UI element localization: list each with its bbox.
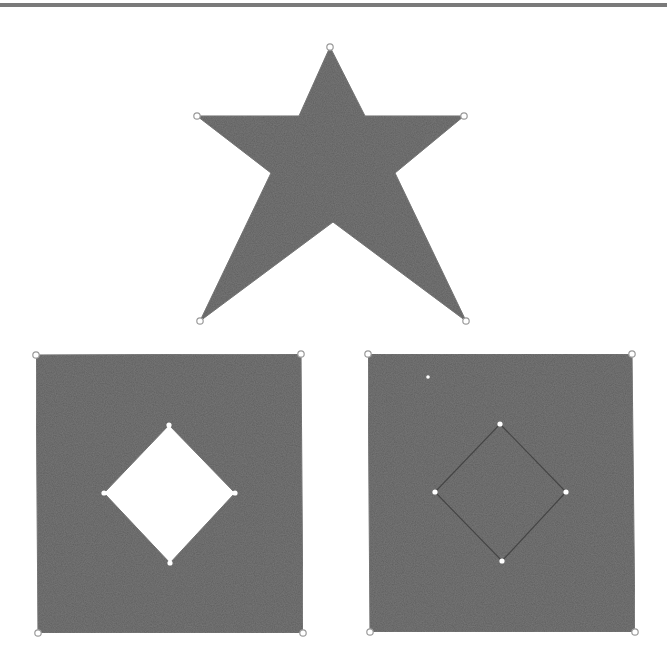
vertex-handle-icon[interactable] bbox=[197, 318, 203, 324]
vertex-handle-icon[interactable] bbox=[194, 113, 200, 119]
shapes-canvas bbox=[0, 0, 667, 658]
vertex-handle-icon[interactable] bbox=[33, 352, 39, 358]
star-shape[interactable] bbox=[194, 44, 469, 324]
vertex-handle-icon[interactable] bbox=[365, 351, 371, 357]
star-polygon[interactable] bbox=[197, 47, 466, 321]
vertex-handle-icon[interactable] bbox=[499, 558, 504, 563]
square-evenodd-polygon[interactable] bbox=[36, 354, 303, 633]
vertex-handle-icon[interactable] bbox=[367, 629, 373, 635]
vertex-handle-icon[interactable] bbox=[497, 421, 502, 426]
vertex-handle-icon[interactable] bbox=[298, 351, 304, 357]
vertex-handle-icon[interactable] bbox=[101, 490, 106, 495]
square-with-hole-shape[interactable] bbox=[33, 351, 306, 636]
vertex-handle-icon[interactable] bbox=[463, 318, 469, 324]
vertex-handle-icon[interactable] bbox=[632, 629, 638, 635]
vertex-handle-icon[interactable] bbox=[629, 351, 635, 357]
square-with-filled-diamond-shape[interactable] bbox=[365, 351, 638, 635]
vertex-handle-icon[interactable] bbox=[167, 560, 172, 565]
vertex-handle-icon[interactable] bbox=[300, 630, 306, 636]
vertex-handle-icon[interactable] bbox=[232, 490, 237, 495]
vertex-handle-icon[interactable] bbox=[426, 375, 430, 379]
vertex-handle-icon[interactable] bbox=[327, 44, 333, 50]
vertex-handle-icon[interactable] bbox=[166, 422, 171, 427]
square-nonzero-polygon[interactable] bbox=[368, 354, 635, 632]
vertex-handle-icon[interactable] bbox=[563, 489, 568, 494]
vertex-handle-icon[interactable] bbox=[461, 113, 467, 119]
vertex-handle-icon[interactable] bbox=[432, 489, 437, 494]
vertex-handle-icon[interactable] bbox=[35, 630, 41, 636]
